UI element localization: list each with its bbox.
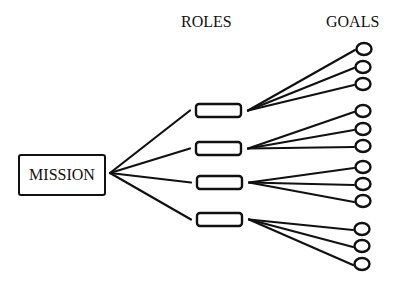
- goal-node: [356, 195, 371, 207]
- role-goal-connector: [248, 130, 354, 149]
- role-node-3: [197, 176, 242, 189]
- role-goal-connector: [248, 112, 354, 149]
- mission-label: MISSION: [29, 166, 95, 184]
- role-goal-connector: [249, 168, 354, 183]
- goal-nodes: [355, 43, 372, 270]
- goal-node: [356, 161, 371, 173]
- mission-node: MISSION: [18, 154, 106, 196]
- role-nodes: [196, 104, 242, 226]
- role-node-4: [197, 213, 242, 226]
- goal-node: [355, 240, 370, 252]
- role-node-2: [196, 142, 241, 155]
- goal-node: [355, 258, 370, 270]
- goal-node: [356, 140, 371, 152]
- mission-role-connector: [110, 149, 190, 174]
- role-to-goal-connectors: [248, 50, 355, 265]
- mission-to-role-connectors: [110, 111, 191, 220]
- goal-node: [355, 223, 370, 235]
- goal-node: [356, 178, 371, 190]
- role-goal-connector: [248, 50, 355, 111]
- goal-node: [356, 123, 371, 135]
- goal-node: [356, 78, 371, 90]
- role-goal-connector: [248, 147, 354, 149]
- role-node-1: [196, 104, 241, 117]
- roles-header: ROLES: [181, 13, 232, 31]
- goal-node: [356, 61, 371, 73]
- goals-header: GOALS: [326, 13, 379, 31]
- goal-node: [357, 43, 372, 55]
- mission-role-connector: [110, 111, 190, 174]
- goal-node: [356, 105, 371, 117]
- diagram-canvas: [0, 0, 404, 292]
